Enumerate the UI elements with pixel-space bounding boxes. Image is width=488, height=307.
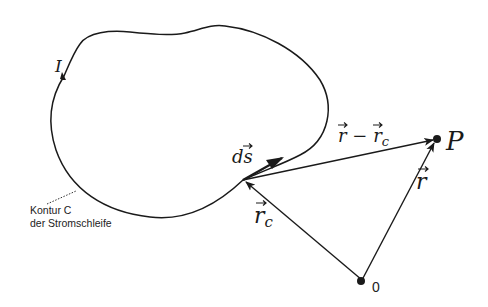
svg-text:r − rc: r − rc: [338, 125, 390, 149]
svg-text:ds: ds: [232, 146, 253, 167]
r-vector-arrow: [362, 143, 434, 280]
contour-leader-line: [47, 191, 76, 204]
current-label: I: [54, 56, 62, 76]
r-minus-rc-label: r − rc: [338, 123, 390, 150]
r-label: r: [416, 167, 428, 195]
contour-label-line1: Kontur C: [30, 204, 72, 216]
rc-vector-arrow: [246, 182, 362, 280]
svg-text:r: r: [416, 169, 428, 194]
point-P-dot: [433, 135, 441, 143]
diagram-canvas: I ds r − rc P r rc 0 Kontur C der Stroms…: [0, 0, 488, 307]
svg-text:rc: rc: [254, 203, 274, 231]
point-P-label: P: [445, 126, 464, 156]
origin-dot: [357, 277, 365, 285]
origin-label: 0: [372, 279, 380, 295]
contour-label-line2: der Stromschleife: [30, 217, 112, 229]
current-loop-contour: [51, 26, 328, 218]
ds-label: ds: [232, 144, 253, 168]
rc-label: rc: [254, 201, 274, 232]
